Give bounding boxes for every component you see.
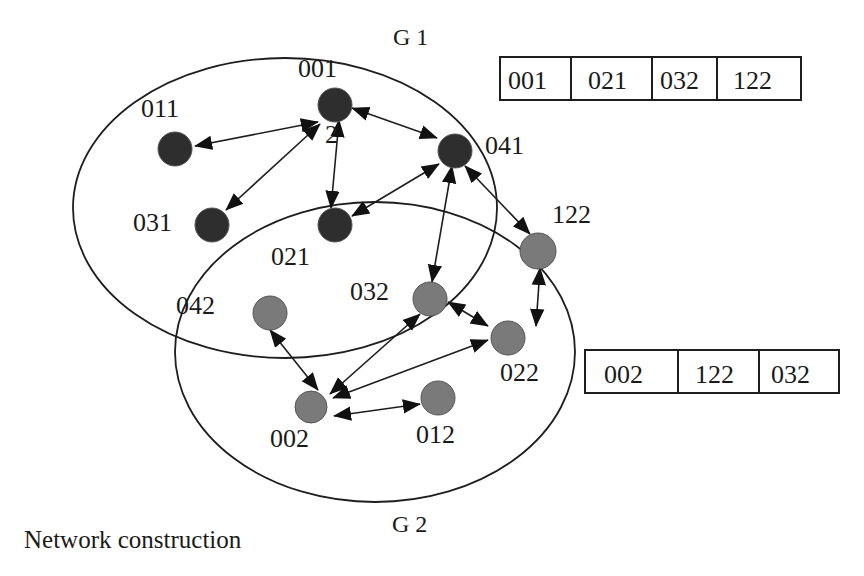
node-label-032: 032 (350, 277, 389, 306)
node-label-012: 012 (416, 420, 455, 449)
g2-table-cell: 122 (695, 360, 734, 389)
node-label-011: 011 (141, 94, 179, 123)
group-label-g1: G 1 (393, 24, 428, 50)
node-042[interactable] (253, 296, 287, 330)
g1-table-cell: 032 (660, 66, 699, 95)
edge-042-002 (270, 330, 318, 390)
node-022[interactable] (491, 321, 525, 355)
node-021[interactable] (318, 208, 352, 242)
edge-032-022 (448, 302, 488, 326)
g1-table-cell: 021 (588, 66, 627, 95)
node-label-002: 002 (270, 424, 309, 453)
stray-label: 2 (325, 120, 338, 149)
node-001[interactable] (318, 88, 352, 122)
node-label-031: 031 (133, 208, 172, 237)
node-label-042: 042 (176, 291, 215, 320)
edge-002-012 (334, 404, 420, 416)
g2-table-cell: 002 (604, 360, 643, 389)
edge-001-041 (352, 108, 437, 138)
edge-041-122 (465, 166, 530, 234)
node-label-122: 122 (552, 200, 591, 229)
g1-table-cell: 001 (508, 66, 547, 95)
node-011[interactable] (158, 132, 192, 166)
g2-table-cell: 032 (771, 360, 810, 389)
node-label-041: 041 (485, 131, 524, 160)
g1-table: 001 021 032 122 (500, 57, 801, 100)
node-label-021: 021 (271, 242, 310, 271)
node-032[interactable] (413, 282, 447, 316)
diagram-caption: Network construction (24, 526, 242, 553)
g1-table-cell: 122 (733, 66, 772, 95)
network-diagram: G 1 G 2 001 011 041 031 021 122 032 04 (0, 0, 864, 576)
node-041[interactable] (438, 134, 472, 168)
node-002[interactable] (295, 391, 327, 423)
group-label-g2: G 2 (392, 511, 427, 537)
edge-041-032 (432, 166, 452, 282)
g2-table: 002 122 032 (585, 350, 839, 393)
node-label-022: 022 (500, 358, 539, 387)
node-122[interactable] (520, 233, 556, 269)
node-012[interactable] (421, 381, 455, 415)
node-031[interactable] (195, 208, 229, 242)
edge-122-022 (536, 268, 540, 326)
edge-041-021 (352, 164, 439, 216)
node-label-001: 001 (298, 54, 337, 83)
